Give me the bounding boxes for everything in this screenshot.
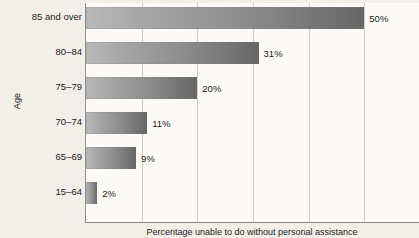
bar-value-label: 9%: [141, 153, 155, 164]
bar-row[interactable]: 11%: [86, 108, 171, 138]
bar-value-label: 2%: [102, 188, 116, 199]
bar-row[interactable]: 2%: [86, 178, 116, 208]
y-axis-tick-labels: 85 and over 80–84 75–79 70–74 65–69 15–6…: [0, 3, 82, 222]
bar[interactable]: [86, 42, 259, 64]
bar[interactable]: [86, 77, 197, 99]
x-axis-title: Percentage unable to do without personal…: [85, 227, 419, 237]
bar-row[interactable]: 50%: [86, 3, 388, 33]
plot-area: 50% 31% 20% 11% 9% 2%: [85, 3, 419, 222]
bar[interactable]: [86, 112, 147, 134]
bar-value-label: 50%: [369, 13, 388, 24]
y-axis-tick-label: 85 and over: [0, 11, 82, 22]
y-axis-tick-label: 80–84: [0, 46, 82, 57]
bar[interactable]: [86, 147, 136, 169]
bar-value-label: 11%: [152, 118, 170, 129]
y-axis-tick-label: 65–69: [0, 151, 82, 162]
gridline: [309, 3, 310, 222]
y-axis-tick-label: 70–74: [0, 116, 82, 127]
gridline: [253, 3, 254, 222]
bar-value-label: 20%: [202, 83, 221, 94]
bar-value-label: 31%: [264, 48, 283, 59]
bar-row[interactable]: 31%: [86, 38, 283, 68]
bar[interactable]: [86, 7, 364, 29]
bar-row[interactable]: 20%: [86, 73, 221, 103]
x-axis-line: [85, 222, 419, 223]
bar[interactable]: [86, 182, 97, 204]
gridline: [364, 3, 365, 222]
bar-chart: Age 85 and over 80–84 75–79 70–74 65–69 …: [0, 0, 419, 238]
bar-row[interactable]: 9%: [86, 143, 155, 173]
gridline: [197, 3, 198, 222]
y-axis-tick-label: 15–64: [0, 186, 82, 197]
y-axis-tick-label: 75–79: [0, 81, 82, 92]
